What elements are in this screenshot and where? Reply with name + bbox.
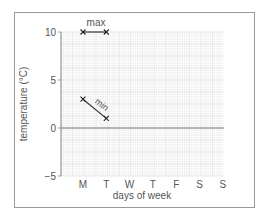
x-tick-labels: MTWTFSS: [79, 179, 227, 190]
grid: [61, 32, 224, 176]
y-tick-label: 0: [50, 123, 56, 134]
y-tick-label: −5: [45, 171, 57, 182]
max-label: max: [87, 17, 106, 28]
temperature-chart: −50510 MTWTFSS max min days of week temp…: [0, 0, 271, 221]
x-tick-label: W: [125, 179, 135, 190]
x-tick-label: T: [150, 179, 156, 190]
y-tick-labels: −50510: [45, 27, 61, 182]
x-tick-label: S: [196, 179, 203, 190]
x-tick-label: T: [103, 179, 109, 190]
y-axis-label: temperature (°C): [18, 67, 29, 142]
x-tick-label: S: [219, 179, 226, 190]
y-tick-label: 5: [50, 75, 56, 86]
x-tick-label: M: [79, 179, 87, 190]
x-tick-label: F: [173, 179, 179, 190]
x-axis-label: days of week: [113, 190, 172, 201]
y-tick-label: 10: [45, 27, 57, 38]
